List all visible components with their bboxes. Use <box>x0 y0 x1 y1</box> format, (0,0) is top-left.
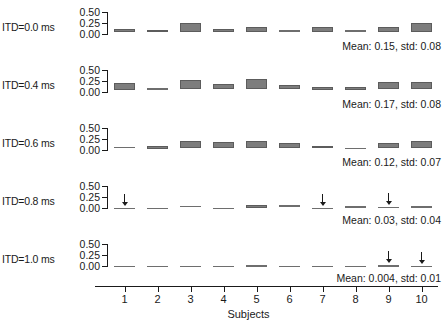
panel-stat-annotation: Mean: 0.12, std: 0.07 <box>342 156 441 168</box>
bar-subject-8 <box>345 206 366 208</box>
panel-itd-0: ITD=0.0 ms0.000.250.50Mean: 0.15, std: 0… <box>0 3 447 61</box>
y-axis-tick-label: 0.25 <box>80 18 100 29</box>
bar-subject-5 <box>246 265 267 267</box>
panel-row-label: ITD=1.0 ms <box>2 253 80 265</box>
bar-subject-5 <box>246 27 267 32</box>
panel-itd-0-6: ITD=0.6 ms0.000.250.50Mean: 0.12, std: 0… <box>0 119 447 177</box>
x-axis-tick-mark <box>389 287 390 292</box>
y-axis-tick-label: 0.50 <box>80 181 100 192</box>
bar-subject-5 <box>246 141 267 148</box>
panel-itd-1: ITD=1.0 ms0.000.250.50Mean: 0.004, std: … <box>0 235 447 293</box>
bar-subject-4 <box>213 84 234 89</box>
bar-subject-2 <box>147 30 168 33</box>
bar-subject-9 <box>378 143 399 148</box>
x-axis-tick-mark <box>290 287 291 292</box>
x-axis-tick-mark <box>125 287 126 292</box>
panel-row-label: ITD=0.8 ms <box>2 195 80 207</box>
bar-subject-8 <box>345 148 366 150</box>
bar-subject-6 <box>279 143 300 148</box>
bar-subject-10 <box>411 23 432 32</box>
bar-subject-9 <box>378 82 399 90</box>
panel-stat-annotation: Mean: 0.004, std: 0.01 <box>337 272 442 284</box>
x-axis-tick-label-5: 5 <box>247 293 267 305</box>
panel-row-label: ITD=0.6 ms <box>2 137 80 149</box>
x-axis-tick-mark <box>356 287 357 292</box>
bar-subject-1 <box>114 147 135 149</box>
x-axis-tick-label-4: 4 <box>214 293 234 305</box>
x-axis-tick-label-8: 8 <box>346 293 366 305</box>
panel-stat-annotation: Mean: 0.17, std: 0.08 <box>342 98 441 110</box>
bar-subject-6 <box>279 266 300 268</box>
bar-subject-1 <box>114 29 135 32</box>
x-axis-tick-mark <box>323 287 324 292</box>
bar-subject-1 <box>114 83 135 89</box>
x-axis-tick-label-7: 7 <box>313 293 333 305</box>
y-axis-tick-label: 0.25 <box>80 134 100 145</box>
bar-subject-9 <box>378 207 399 209</box>
bar-subject-7 <box>312 27 333 32</box>
bar-subject-2 <box>147 266 168 268</box>
panel-row-label: ITD=0.0 ms <box>2 21 80 33</box>
bar-subject-4 <box>213 29 234 32</box>
bar-subject-2 <box>147 88 168 90</box>
panel-itd-0-8: ITD=0.8 ms0.000.250.50Mean: 0.03, std: 0… <box>0 177 447 235</box>
bar-subject-3 <box>180 206 201 208</box>
y-axis-tick-label: 0.50 <box>80 239 100 250</box>
x-axis-tick-mark <box>191 287 192 292</box>
x-axis-tick-mark <box>158 287 159 292</box>
y-axis-tick-label: 0.50 <box>80 65 100 76</box>
bar-subject-6 <box>279 30 300 32</box>
bar-subject-3 <box>180 80 201 89</box>
y-axis-tick-label: 0.50 <box>80 123 100 134</box>
bar-subject-7 <box>312 146 333 148</box>
panel-plot-area <box>108 119 438 177</box>
x-axis-tick-mark <box>257 287 258 292</box>
bar-subject-1 <box>114 266 135 268</box>
bar-subject-6 <box>279 85 300 89</box>
y-axis-tick-label: 0.25 <box>80 192 100 203</box>
bar-subject-10 <box>411 266 432 268</box>
y-axis-tick-label: 0.25 <box>80 76 100 87</box>
bar-subject-3 <box>180 141 201 148</box>
x-axis-label: Subjects <box>0 308 447 320</box>
bar-subject-2 <box>147 146 168 148</box>
bar-subject-4 <box>213 142 234 148</box>
bar-subject-10 <box>411 206 432 208</box>
bar-subject-7 <box>312 266 333 268</box>
bar-subject-8 <box>345 30 366 32</box>
panel-row-label: ITD=0.4 ms <box>2 79 80 91</box>
bar-subject-7 <box>312 208 333 210</box>
bar-subject-4 <box>213 208 234 210</box>
panel-stat-annotation: Mean: 0.03, std: 0.04 <box>342 214 441 226</box>
bar-subject-9 <box>378 265 399 267</box>
y-axis-tick-label: 0.00 <box>80 29 100 40</box>
panel-plot-area <box>108 3 438 61</box>
x-axis-tick-mark <box>224 287 225 292</box>
bar-subject-3 <box>180 266 201 268</box>
bar-subject-8 <box>345 266 366 268</box>
y-axis-tick-label: 0.25 <box>80 250 100 261</box>
x-axis-tick-label-6: 6 <box>280 293 300 305</box>
y-axis-tick-label: 0.00 <box>80 261 100 272</box>
bar-subject-5 <box>246 205 267 207</box>
x-axis-tick-label-10: 10 <box>412 293 432 305</box>
panel-stat-annotation: Mean: 0.15, std: 0.08 <box>342 40 441 52</box>
bar-subject-1 <box>114 208 135 210</box>
y-axis-tick-label: 0.50 <box>80 7 100 18</box>
bar-subject-3 <box>180 23 201 32</box>
bar-subject-6 <box>279 205 300 207</box>
bar-subject-4 <box>213 266 234 268</box>
y-axis-tick-label: 0.00 <box>80 145 100 156</box>
x-axis-label-text: Subjects <box>227 308 269 320</box>
x-axis-line <box>95 286 438 287</box>
panel-plot-area <box>108 235 438 293</box>
bar-subject-10 <box>411 141 432 148</box>
panel-itd-0-4: ITD=0.4 ms0.000.250.50Mean: 0.17, std: 0… <box>0 61 447 119</box>
bar-subject-2 <box>147 208 168 210</box>
bar-subject-7 <box>312 87 333 89</box>
y-axis-tick-label: 0.00 <box>80 203 100 214</box>
bar-subject-10 <box>411 82 432 89</box>
x-axis-tick-label-3: 3 <box>181 293 201 305</box>
x-axis: 12345678910 Subjects <box>0 286 447 319</box>
